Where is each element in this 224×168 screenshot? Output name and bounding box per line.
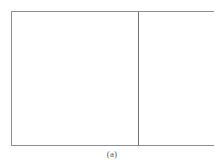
panel-divider-line	[138, 12, 139, 145]
figure-container: (a)	[0, 0, 224, 168]
figure-caption: (a)	[0, 148, 224, 160]
right-panel	[139, 12, 215, 145]
left-panel	[12, 12, 138, 145]
figure-panel-frame	[11, 11, 214, 146]
